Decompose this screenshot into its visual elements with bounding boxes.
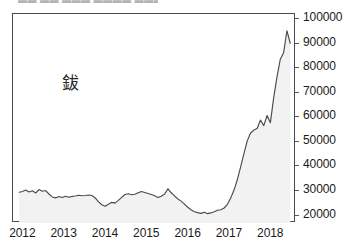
y-tick-mark <box>295 141 299 142</box>
y-tick-label: 20000 <box>303 207 336 222</box>
y-tick-mark <box>295 92 299 93</box>
y-tick-mark <box>295 215 299 216</box>
y-tick-mark <box>295 165 299 166</box>
y-tick-mark <box>295 116 299 117</box>
x-tick-label: 2014 <box>92 224 118 242</box>
plot-area: 鈸 <box>12 13 295 222</box>
y-tick-mark <box>295 67 299 68</box>
series-annotation-label: 鈸 <box>62 73 79 93</box>
series-area-fill <box>19 31 290 223</box>
chart-container: ▬▬ ▬▬ ▬▬▬ ▬▬▬▬ ▬▬▬ , 鈸 10000090000800007… <box>0 0 349 248</box>
x-tick-label: 2018 <box>257 224 283 242</box>
x-tick-label: 2012 <box>9 224 35 242</box>
y-tick-mark <box>295 43 299 44</box>
y-tick-label: 40000 <box>303 157 336 172</box>
y-tick-label: 60000 <box>303 108 336 123</box>
x-tick-label: 2017 <box>216 224 242 242</box>
x-tick-label: 2013 <box>50 224 76 242</box>
x-axis: 2012201320142015201620172018 <box>0 224 349 246</box>
y-tick-label: 70000 <box>303 84 336 99</box>
y-tick-label: 90000 <box>303 35 336 50</box>
y-axis: 1000009000080000700006000050000400003000… <box>295 13 349 222</box>
x-tick-label: 2015 <box>133 224 159 242</box>
y-tick-label: 100000 <box>303 10 342 25</box>
y-tick-label: 50000 <box>303 133 336 148</box>
top-clipped-text: ▬▬ ▬▬ ▬▬▬ ▬▬▬▬ ▬▬▬ , <box>18 0 158 5</box>
series-plot <box>13 14 296 223</box>
x-tick-label: 2016 <box>174 224 200 242</box>
y-tick-mark <box>295 190 299 191</box>
y-tick-mark <box>295 18 299 19</box>
y-tick-label: 80000 <box>303 59 336 74</box>
y-tick-label: 30000 <box>303 182 336 197</box>
